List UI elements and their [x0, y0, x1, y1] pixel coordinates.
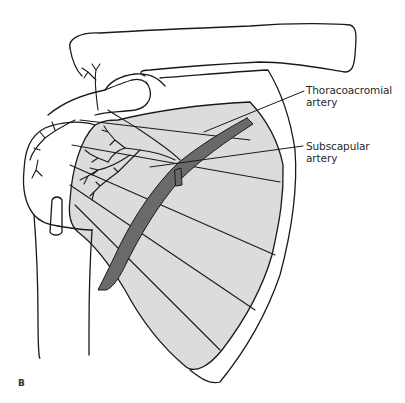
- humerus-right-edge: [89, 230, 92, 355]
- thoracoacromial-artery-label: Thoracoacromial artery: [306, 84, 392, 108]
- shoulder-illustration: [0, 0, 405, 403]
- acromial-branch: [82, 64, 100, 110]
- subscapular-artery-label: Subscapular artery: [306, 140, 370, 164]
- pectoralis-muscle: [69, 102, 283, 369]
- subscapular-branch: [175, 168, 182, 186]
- vessel-stump: [50, 197, 62, 235]
- label-line2: artery: [306, 96, 392, 108]
- acromion-outline: [48, 79, 150, 115]
- deltoid-branch: [30, 120, 75, 178]
- anatomical-figure: Thoracoacromial artery Subscapular arter…: [0, 0, 405, 403]
- label-line1: Thoracoacromial: [306, 84, 392, 96]
- clavicle-outline: [70, 24, 356, 76]
- clavicle-lower-edge: [70, 48, 82, 76]
- panel-letter: B: [18, 378, 25, 388]
- humerus-left-edge: [34, 215, 40, 358]
- label-line2: artery: [306, 152, 370, 164]
- coracoid-outline: [105, 74, 165, 90]
- label-line1: Subscapular: [306, 140, 370, 152]
